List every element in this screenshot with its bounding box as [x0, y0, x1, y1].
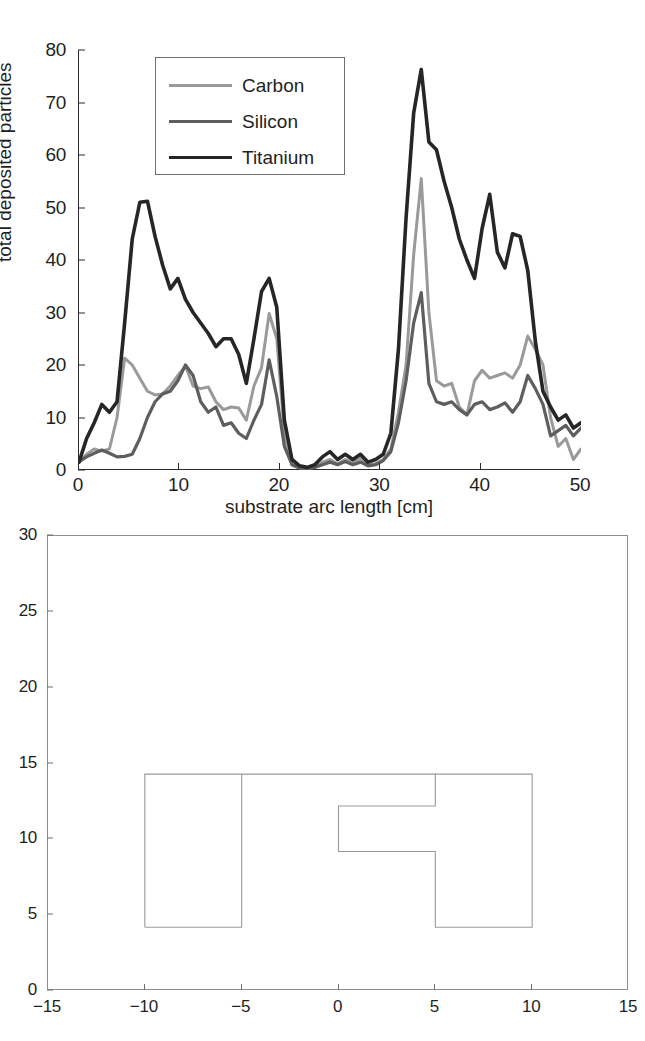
y-tick-label-top: 50	[0, 197, 66, 219]
y-tick-mark-top	[78, 260, 85, 261]
y-tick-mark-top	[78, 470, 85, 471]
x-tick-mark-top	[480, 463, 481, 470]
x-tick-label-top: 50	[570, 474, 591, 496]
x-tick-label-top: 30	[369, 474, 390, 496]
y-tick-mark-top	[78, 312, 85, 313]
y-tick-label-bottom: 5	[0, 904, 37, 924]
legend-swatch-silicon	[169, 120, 232, 123]
y-tick-label-bottom: 15	[0, 753, 37, 773]
legend-item-titanium: Titanium	[156, 139, 344, 175]
y-tick-mark-bottom	[47, 838, 53, 839]
x-tick-mark-top	[178, 463, 179, 470]
y-tick-mark-top	[78, 50, 85, 51]
figure-root: total deposited particles 01020304050607…	[0, 0, 645, 1041]
x-tick-label-bottom: −15	[33, 997, 61, 1017]
x-tick-label-bottom: −10	[130, 997, 158, 1017]
y-tick-mark-bottom	[47, 686, 53, 687]
y-tick-mark-bottom	[47, 762, 53, 763]
x-tick-label-top: 20	[269, 474, 290, 496]
y-tick-label-top: 70	[0, 92, 66, 114]
x-tick-label-bottom: 0	[333, 997, 342, 1017]
y-tick-mark-top	[78, 365, 85, 366]
x-tick-label-top: 10	[168, 474, 189, 496]
y-tick-mark-bottom	[47, 610, 53, 611]
y-tick-mark-top	[78, 155, 85, 156]
legend-swatch-titanium	[169, 156, 232, 159]
y-tick-label-top: 60	[0, 144, 66, 166]
x-tick-label-bottom: 5	[430, 997, 439, 1017]
x-tick-mark-top	[279, 463, 280, 470]
y-tick-label-top: 30	[0, 302, 66, 324]
bottom-plot-area	[47, 535, 628, 990]
y-tick-mark-bottom	[47, 990, 53, 991]
y-tick-label-top: 20	[0, 354, 66, 376]
y-tick-label-top: 40	[0, 249, 66, 271]
y-tick-label-top: 80	[0, 39, 66, 61]
legend-label-titanium: Titanium	[242, 148, 314, 167]
legend-item-silicon: Silicon	[156, 103, 344, 139]
x-tick-label-top: 0	[73, 474, 83, 496]
deposition-profile-chart: total deposited particles 01020304050607…	[0, 0, 645, 520]
x-tick-label-bottom: 15	[619, 997, 637, 1017]
x-tick-mark-bottom	[531, 984, 532, 990]
x-tick-mark-bottom	[241, 984, 242, 990]
y-tick-mark-top	[78, 207, 85, 208]
y-tick-mark-bottom	[47, 914, 53, 915]
y-tick-mark-top	[78, 102, 85, 103]
x-tick-label-bottom: −5	[231, 997, 250, 1017]
y-tick-label-top: 0	[0, 459, 66, 481]
legend-label-carbon: Carbon	[242, 76, 304, 95]
x-tick-label-bottom: 10	[522, 997, 540, 1017]
y-tick-label-bottom: 10	[0, 828, 37, 848]
series-line-carbon	[79, 179, 581, 469]
x-tick-mark-bottom	[144, 984, 145, 990]
legend-label-silicon: Silicon	[242, 112, 298, 131]
x-tick-label-top: 40	[469, 474, 490, 496]
x-tick-mark-top	[379, 463, 380, 470]
series-line-silicon	[79, 293, 581, 469]
y-tick-label-bottom: 25	[0, 601, 37, 621]
y-tick-label-bottom: 20	[0, 677, 37, 697]
legend-swatch-carbon	[169, 84, 232, 87]
substrate-cross-section-outline	[48, 536, 629, 991]
y-tick-mark-bottom	[47, 535, 53, 536]
chart-legend: Carbon Silicon Titanium	[155, 57, 345, 175]
x-axis-label-top: substrate arc length [cm]	[78, 496, 580, 518]
y-tick-label-bottom: 0	[0, 980, 37, 1000]
y-tick-label-bottom: 30	[0, 525, 37, 545]
y-tick-label-top: 10	[0, 407, 66, 429]
y-tick-mark-top	[78, 417, 85, 418]
x-tick-mark-bottom	[338, 984, 339, 990]
x-tick-mark-bottom	[434, 984, 435, 990]
substrate-geometry-chart: 051015202530 −15−10−5051015	[0, 520, 645, 1041]
legend-item-carbon: Carbon	[156, 67, 344, 103]
